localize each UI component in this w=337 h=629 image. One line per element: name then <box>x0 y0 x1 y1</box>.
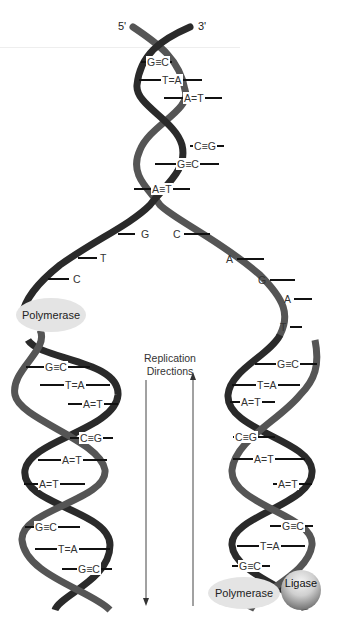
polymerase-right: Polymerase <box>208 577 280 609</box>
right-base-pair: C≡G <box>234 431 258 443</box>
parent-base-pair: C≡G <box>193 140 217 152</box>
left-base-pair: T=A <box>57 543 79 555</box>
parent-base-pair: G≡C <box>146 56 170 68</box>
dna-replication-diagram: 5' 3' G≡C T=A A=T C≡G G≡C A≡T G T C C A … <box>0 0 337 629</box>
three-prime-label: 3' <box>198 20 206 32</box>
left-base-pair: C≡G <box>79 432 103 444</box>
right-base-pair: G≡C <box>281 520 305 532</box>
left-base-pair: G≡C <box>44 361 68 373</box>
polymerase-left: Polymerase <box>16 298 86 332</box>
left-strand-base: C <box>73 273 81 285</box>
arrow-down-icon <box>143 598 149 606</box>
left-strand-base: T <box>100 252 106 264</box>
left-base-pair: A=T <box>82 398 104 410</box>
right-base-pair: A=T <box>240 396 262 408</box>
left-base-pair: G≡C <box>34 521 58 533</box>
left-strand-base: G <box>141 228 149 240</box>
parent-base-pair: A=T <box>183 92 205 104</box>
left-base-pair: T=A <box>64 379 86 391</box>
right-base-pair: T=A <box>259 540 281 552</box>
parent-base-pair: T=A <box>161 74 183 86</box>
left-base-pair: A=T <box>38 478 60 490</box>
right-strand-base: A <box>284 293 291 305</box>
replication-directions-label: Replication Directions <box>130 352 210 378</box>
right-base-pair: G≡C <box>276 358 300 370</box>
right-base-pair: G≡C <box>238 560 262 572</box>
right-strand-base: A <box>226 253 233 265</box>
right-base-pair: T=A <box>256 379 278 391</box>
left-base-pair: A=T <box>61 454 83 466</box>
left-base-pair: G≡C <box>77 563 101 575</box>
parent-base-pair: G≡C <box>176 158 200 170</box>
parent-base-pair: A≡T <box>151 183 173 195</box>
replication-label-line1: Replication <box>130 352 210 365</box>
right-base-pair: A=T <box>253 453 275 465</box>
five-prime-label: 5' <box>118 20 126 32</box>
right-strand-base: T <box>280 321 286 333</box>
right-strand-base: G <box>258 274 266 286</box>
replication-label-line2: Directions <box>130 365 210 378</box>
right-strand-base: C <box>173 228 181 240</box>
ligase: Ligase <box>281 570 321 610</box>
replication-arrows <box>143 372 196 606</box>
parent-helix-strands <box>22 27 285 335</box>
right-base-pair: A=T <box>277 478 299 490</box>
